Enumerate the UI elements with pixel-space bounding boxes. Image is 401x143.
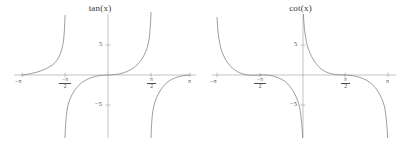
tan-xlabel-half-pi: π 2 xyxy=(147,77,156,90)
cot-xlabel-neg-half-pi: −π 2 xyxy=(254,77,266,90)
cot-ylabel-pos: 5 xyxy=(294,41,297,48)
tan-xlabel-pi: π xyxy=(188,78,191,84)
trig-function-figure: tan(x) −π −π 2 xyxy=(0,0,401,143)
tan-xlabel-half-pi-denominator: 2 xyxy=(147,84,156,90)
cot-ylabel-neg: −5 xyxy=(290,101,297,108)
cot-xlabel-neg-half-pi-denominator: 2 xyxy=(254,84,266,90)
tan-ylabel-pos: 5 xyxy=(99,41,102,48)
tan-plot-panel: tan(x) −π −π 2 xyxy=(0,0,200,143)
cot-plot-panel: cot(x) −π −π 2 π xyxy=(200,0,401,143)
cot-plot-canvas xyxy=(200,0,401,143)
cot-xlabel-neg-pi: −π xyxy=(210,78,216,84)
tan-plot-canvas xyxy=(0,0,200,143)
tan-ylabel-neg: −5 xyxy=(95,101,102,108)
tan-xlabel-neg-pi: −π xyxy=(15,78,21,84)
cot-xlabel-neg-half-pi-numerator: −π xyxy=(254,77,266,83)
tan-xlabel-neg-half-pi-numerator: −π xyxy=(59,77,71,83)
cot-xlabel-half-pi-denominator: 2 xyxy=(341,84,350,90)
tan-branch-left xyxy=(22,15,65,75)
tan-branch-right xyxy=(151,75,190,138)
cot-xlabel-half-pi-numerator: π xyxy=(341,77,350,83)
tan-xlabel-neg-half-pi-denominator: 2 xyxy=(59,84,71,90)
cot-xlabel-pi: π xyxy=(386,78,389,84)
tan-xlabel-half-pi-numerator: π xyxy=(147,77,156,83)
cot-xlabel-half-pi: π 2 xyxy=(341,77,350,90)
tan-xlabel-neg-half-pi: −π 2 xyxy=(59,77,71,90)
